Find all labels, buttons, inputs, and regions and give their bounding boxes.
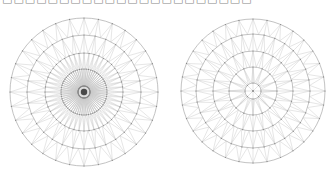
right-mesh-diagram xyxy=(180,18,325,163)
mesh-figure xyxy=(0,0,333,182)
left-mesh-diagram xyxy=(9,17,158,166)
